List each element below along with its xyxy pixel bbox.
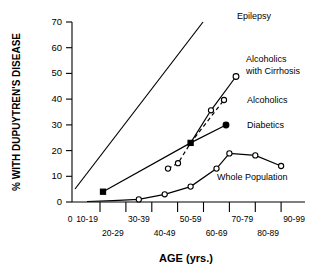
x-tick-label-0: 0 [68,214,73,224]
x-tick-label-60-69: 60-69 [206,228,228,238]
whole-population-point-40-49 [162,192,167,197]
chart-canvas: 0 10 20 30 40 50 60 70 % WITH DUPUYTREN'… [0,0,321,280]
alcoholics-point-40-49 [165,166,170,171]
x-tick-label-20-29: 20-29 [102,228,124,238]
x-axis-title: AGE (yrs.) [159,252,213,264]
x-tick-label-40-49: 40-49 [154,228,176,238]
whole-population-point-80-89 [253,153,258,158]
alcoholics-point-70-79 [221,97,226,102]
whole-population-point-70-79 [227,151,232,156]
y-axis-title: % WITH DUPUYTREN'S DISEASE [11,33,22,191]
diabetics-line [103,125,226,192]
y-tick-label-50: 50 [51,67,62,78]
annotation-cirrhosis-line2: with Cirrhosis [245,66,301,76]
y-tick-label-20: 20 [51,145,62,156]
x-tick-label-70-79: 70-79 [232,214,254,224]
series-epilepsy [75,22,203,189]
diabetics-point-70-79 [223,122,229,128]
diabetics-point-20-29 [100,189,105,194]
dupuytren-disease-chart: 0 10 20 30 40 50 60 70 % WITH DUPUYTREN'… [0,0,321,280]
annotation-alcoholics: Alcoholics [247,95,288,105]
cirrhosis-point-60-69 [208,108,213,113]
series-diabetics [100,122,229,194]
y-tick-label-40: 40 [51,93,62,104]
x-tick-label-10-19: 10-19 [76,214,98,224]
whole-population-point-90-99 [279,163,284,168]
alcoholics-point-45-49 [175,161,180,166]
y-tick-label-10: 10 [51,170,62,181]
y-tick-label-70: 70 [51,16,62,27]
whole-population-point-30-39 [136,197,141,202]
y-tick-label-60: 60 [51,42,62,53]
y-tick-label-0: 0 [57,196,62,207]
annotation-whole-population: Whole Population [217,172,288,182]
x-tick-label-30-39: 30-39 [128,214,150,224]
x-tick-label-90-99: 90-99 [283,214,305,224]
y-tick-label-30: 30 [51,119,62,130]
x-tick-label-50-59: 50-59 [180,214,202,224]
epilepsy-line [75,22,203,189]
annotation-epilepsy: Epilepsy [237,11,272,21]
series-alcoholics-with-cirrhosis [191,74,239,143]
whole-population-point-50-59 [188,184,193,189]
whole-population-point-60-69 [214,166,219,171]
annotation-diabetics: Diabetics [247,120,285,130]
annotation-cirrhosis-line1: Alcoholics [246,54,287,64]
cirrhosis-point-70-79 [233,74,239,80]
x-tick-label-80-89: 80-89 [257,228,279,238]
y-axis: 0 10 20 30 40 50 60 70 % WITH DUPUYTREN'… [11,16,72,207]
x-axis: 0 10-19 30-39 50-59 70-79 90-99 20-29 40… [68,202,306,264]
